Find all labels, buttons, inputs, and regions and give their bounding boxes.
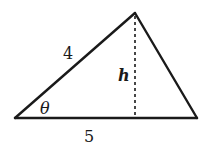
height-label: h (118, 66, 130, 85)
side-left (15, 13, 135, 118)
side-left-label: 4 (63, 44, 73, 63)
triangle-diagram: 4 h θ 5 (0, 0, 210, 152)
angle-theta-label: θ (40, 99, 50, 118)
side-right (135, 13, 197, 118)
base-label: 5 (84, 127, 94, 146)
